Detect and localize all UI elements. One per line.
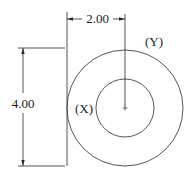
inner-circle-callout: (X) bbox=[75, 101, 93, 116]
arrowhead-right-icon bbox=[119, 17, 125, 20]
horizontal-dimension-label: 2.00 bbox=[86, 11, 109, 26]
drawing: 2.00 4.00 (Y) (X) bbox=[0, 0, 195, 178]
diagram-canvas: 2.00 4.00 (Y) (X) bbox=[0, 0, 195, 178]
outer-circle-callout: (Y) bbox=[145, 34, 163, 49]
arrowhead-left-icon bbox=[67, 17, 73, 20]
vertical-dimension-label: 4.00 bbox=[12, 96, 35, 111]
arrowhead-up-icon bbox=[21, 48, 24, 54]
arrowhead-down-icon bbox=[21, 160, 24, 166]
